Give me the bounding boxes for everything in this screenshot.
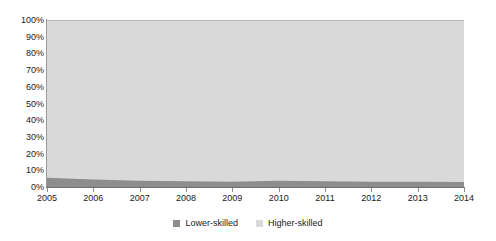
legend-label: Higher-skilled [268, 218, 323, 228]
x-axis-tick-label: 2011 [305, 193, 345, 203]
legend-item-lower-skilled[interactable]: Lower-skilled [173, 218, 238, 228]
x-axis-tick-label: 2007 [120, 193, 160, 203]
legend-label: Lower-skilled [185, 218, 238, 228]
x-axis-tick [93, 188, 94, 192]
x-axis-tick-label: 2008 [166, 193, 206, 203]
x-axis-tick [47, 188, 48, 192]
y-axis-tick-label: 100% [0, 16, 44, 25]
x-axis-tick [371, 188, 372, 192]
legend-item-higher-skilled[interactable]: Higher-skilled [256, 218, 323, 228]
legend-swatch-icon [256, 220, 263, 227]
y-axis-tick-label: 10% [0, 166, 44, 175]
y-axis-tick-label: 50% [0, 100, 44, 109]
chart-legend: Lower-skilled Higher-skilled [0, 216, 496, 230]
x-axis-tick-label: 2006 [73, 193, 113, 203]
x-axis-labels: 2005200620072008200920102011201220132014 [0, 193, 496, 207]
x-axis-tick-label: 2013 [398, 193, 438, 203]
higher-skilled-area [47, 20, 464, 187]
y-axis-line [46, 19, 47, 188]
x-axis-tick-label: 2012 [351, 193, 391, 203]
x-axis-tick [140, 188, 141, 192]
x-axis-line [46, 187, 465, 188]
y-axis-tick-label: 70% [0, 66, 44, 75]
x-axis-tick-label: 2005 [27, 193, 67, 203]
x-axis-tick [186, 188, 187, 192]
y-axis-tick-label: 0% [0, 183, 44, 192]
y-axis-tick-label: 80% [0, 49, 44, 58]
stacked-area-chart: 100% 90% 80% 70% 60% 50% 40% 30% 20% 10%… [0, 0, 496, 241]
y-axis-tick-label: 30% [0, 133, 44, 142]
x-axis-tick-label: 2009 [212, 193, 252, 203]
x-axis-tick [418, 188, 419, 192]
x-axis-tick [325, 188, 326, 192]
y-axis-tick-label: 60% [0, 83, 44, 92]
y-axis-tick-label: 90% [0, 33, 44, 42]
area-series-svg [47, 20, 464, 187]
y-axis-labels: 100% 90% 80% 70% 60% 50% 40% 30% 20% 10%… [0, 20, 44, 187]
x-axis-tick [464, 188, 465, 192]
y-axis-tick-label: 20% [0, 150, 44, 159]
x-axis-tick [232, 188, 233, 192]
legend-swatch-icon [173, 220, 180, 227]
x-axis-tick-label: 2010 [259, 193, 299, 203]
y-axis-tick-label: 40% [0, 116, 44, 125]
x-axis-tick [279, 188, 280, 192]
x-axis-tick-label: 2014 [444, 193, 484, 203]
plot-area [47, 20, 464, 187]
